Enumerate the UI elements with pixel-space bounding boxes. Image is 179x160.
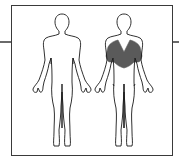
body-figures [0,0,179,160]
front-arm-inner [51,58,73,64]
back-view-figure [95,14,153,146]
front-view-figure [33,14,91,146]
